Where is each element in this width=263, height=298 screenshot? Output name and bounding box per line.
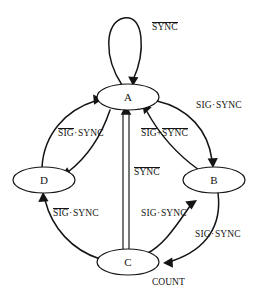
state-node-a[interactable]: A [97, 84, 159, 110]
edge-a-self-loop-path [109, 18, 141, 85]
state-node-d[interactable]: D [13, 167, 75, 193]
state-a-label: A [124, 91, 132, 103]
state-d-label: D [40, 174, 48, 186]
edge-d-to-a-label: SIG·SYNC [58, 128, 104, 139]
edge-a-to-b-label: SIG·SYNC [196, 100, 242, 111]
edge-c-to-d-label: SIG·SYNC [53, 208, 99, 219]
edge-b-to-a-label: SIG+SYNC [141, 128, 188, 139]
edge-c-to-d [38, 192, 100, 259]
state-b-label: B [210, 174, 217, 186]
edge-c-to-a-label: SYNC [134, 167, 160, 178]
edge-a-self-loop-label: SYNC [152, 22, 178, 33]
count-note: COUNT [152, 277, 185, 287]
edge-c-to-b-arrowhead [185, 200, 197, 209]
edge-b-to-c-arrowhead [163, 258, 173, 268]
edge-c-to-a [121, 105, 132, 250]
edge-b-to-c-path [172, 193, 219, 261]
edge-c-to-b-label: SIG·SYNC [141, 208, 187, 219]
edge-a-to-d-path [68, 110, 110, 172]
diagram-canvas: A B C D [0, 0, 263, 298]
state-node-c[interactable]: C [97, 249, 159, 275]
edge-a-to-d [61, 110, 110, 176]
state-c-label: C [124, 256, 131, 268]
state-diagram: A B C D SYNC SIG·SYNC SIG+SYNC SIG·SYNC … [0, 0, 263, 298]
edge-a-self-loop [109, 18, 141, 86]
state-node-b[interactable]: B [183, 167, 245, 193]
edge-b-to-c-label: SIG·SYNC [195, 229, 241, 240]
